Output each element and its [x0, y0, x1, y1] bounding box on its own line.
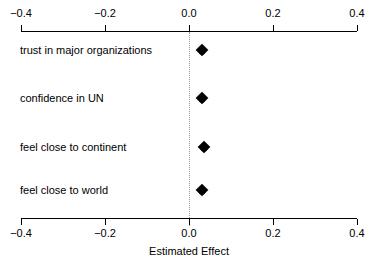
axis-tick-label: 0.4 [349, 227, 364, 239]
axis-tick [105, 219, 106, 225]
axis-tick [21, 25, 22, 31]
axis-tick [273, 25, 274, 31]
data-point-marker [197, 141, 210, 154]
row-label: trust in major organizations [20, 44, 152, 56]
row-label: confidence in UN [20, 92, 104, 104]
x-axis-title: Estimated Effect [149, 245, 229, 257]
axis-tick [357, 25, 358, 31]
data-point-marker [195, 44, 208, 57]
axis-tick-label: 0.0 [181, 7, 196, 19]
axis-tick-label: 0.0 [181, 227, 196, 239]
axis-tick [21, 219, 22, 225]
data-point-marker [196, 184, 209, 197]
axis-tick [105, 25, 106, 31]
axis-tick-label: −0.2 [94, 7, 116, 19]
axis-tick-label: −0.2 [94, 227, 116, 239]
axis-tick-label: 0.4 [349, 7, 364, 19]
axis-tick-label: 0.2 [265, 7, 280, 19]
axis-tick-label: 0.2 [265, 227, 280, 239]
axis-tick-label: −0.4 [10, 227, 32, 239]
axis-tick [189, 219, 190, 225]
coefficient-plot: −0.4−0.20.00.20.4 trust in major organiz… [0, 0, 376, 265]
axis-tick-label: −0.4 [10, 7, 32, 19]
data-point-marker [195, 92, 208, 105]
row-label: feel close to world [20, 184, 108, 196]
axis-tick [357, 219, 358, 225]
axis-tick [189, 25, 190, 31]
row-label: feel close to continent [20, 141, 126, 153]
axis-tick [273, 219, 274, 225]
zero-reference-line [189, 32, 191, 226]
